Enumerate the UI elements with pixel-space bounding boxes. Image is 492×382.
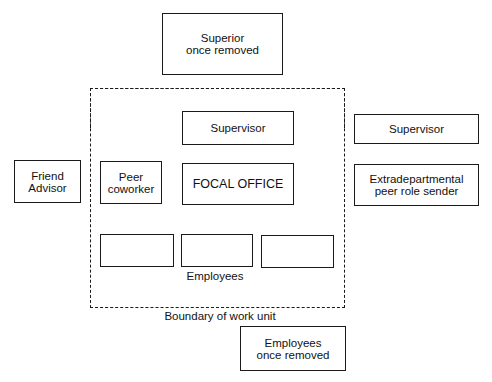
employee-box-1 xyxy=(100,234,174,267)
extradepartmental-box: Extradepartmental peer role sender xyxy=(354,164,479,206)
extradepartmental-label: Extradepartmental peer role sender xyxy=(370,173,464,197)
peer-coworker-box: Peer coworker xyxy=(100,161,162,204)
focal-office-box: FOCAL OFFICE xyxy=(182,163,294,205)
supervisor-inner-label: Supervisor xyxy=(211,122,266,134)
peer-coworker-label: Peer coworker xyxy=(108,171,155,195)
employees-once-removed-label: Employees once removed xyxy=(257,337,330,361)
supervisor-inner-box: Supervisor xyxy=(182,111,294,145)
employees-label: Employees xyxy=(160,270,270,282)
friend-advisor-box: Friend Advisor xyxy=(14,160,81,203)
boundary-label: Boundary of work unit xyxy=(150,310,290,322)
superior-once-removed-label: Superior once removed xyxy=(186,32,259,56)
employee-box-3 xyxy=(261,235,334,268)
employees-once-removed-box: Employees once removed xyxy=(240,326,346,371)
supervisor-outer-label: Supervisor xyxy=(389,123,444,135)
superior-once-removed-box: Superior once removed xyxy=(162,13,283,75)
focal-office-label: FOCAL OFFICE xyxy=(193,178,284,190)
supervisor-outer-box: Supervisor xyxy=(354,114,479,144)
employee-box-2 xyxy=(181,234,253,267)
friend-advisor-label: Friend Advisor xyxy=(28,170,66,194)
